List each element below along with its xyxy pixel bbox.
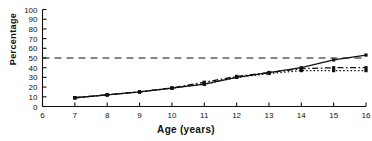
y-tick-label: 80 <box>29 25 38 34</box>
x-tick-label: 8 <box>105 111 110 120</box>
x-tick-label: 13 <box>264 111 273 120</box>
y-tick-label: 70 <box>29 35 38 44</box>
data-point-marker <box>332 69 335 72</box>
data-point-marker <box>364 53 367 56</box>
x-tick-label: 6 <box>40 111 45 120</box>
x-tick-label: 14 <box>297 111 306 120</box>
y-tick-label: 30 <box>29 73 38 82</box>
series-dotted <box>73 69 367 99</box>
data-point-marker <box>300 69 303 72</box>
data-point-marker <box>267 72 270 75</box>
data-point-marker <box>364 66 367 69</box>
y-tick-label: 60 <box>29 44 38 53</box>
y-tick-label: 90 <box>29 15 38 24</box>
data-point-marker <box>332 66 335 69</box>
data-point-marker <box>203 83 206 86</box>
data-point-marker <box>138 90 141 93</box>
chart-figure: Percentage 0102030405060708090100 678910… <box>0 0 372 141</box>
series-solid <box>73 53 367 99</box>
data-point-marker <box>170 86 173 89</box>
data-point-marker <box>332 58 335 61</box>
data-point-marker <box>364 69 367 72</box>
y-tick-label: 50 <box>29 54 38 63</box>
y-tick-label: 100 <box>24 6 38 15</box>
x-tick-label: 7 <box>73 111 78 120</box>
series-dash-dot <box>73 66 367 99</box>
data-point-marker <box>235 76 238 79</box>
x-axis-tick-group: 678910111213141516 <box>40 103 371 120</box>
x-tick-label: 15 <box>329 111 338 120</box>
chart-plot-area: 0102030405060708090100 67891011121314151… <box>0 0 372 141</box>
data-point-marker <box>73 96 76 99</box>
x-tick-label: 10 <box>167 111 176 120</box>
y-tick-label: 40 <box>29 64 38 73</box>
x-tick-label: 16 <box>362 111 371 120</box>
data-point-marker <box>106 93 109 96</box>
x-tick-label: 12 <box>232 111 241 120</box>
x-axis-title: Age (years) <box>0 124 372 135</box>
y-tick-label: 0 <box>33 103 38 112</box>
y-tick-label: 20 <box>29 83 38 92</box>
x-tick-label: 9 <box>137 111 142 120</box>
data-series-group <box>73 53 367 99</box>
y-tick-label: 10 <box>29 93 38 102</box>
x-tick-label: 11 <box>200 111 209 120</box>
series-line <box>75 55 366 98</box>
